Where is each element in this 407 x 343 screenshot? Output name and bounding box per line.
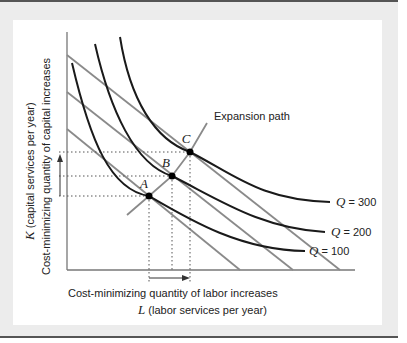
point-a-label: A (139, 176, 148, 191)
point-b (169, 173, 176, 180)
point-b-label: B (162, 155, 170, 170)
isoquants (72, 37, 330, 251)
point-c-label: C (182, 131, 191, 146)
point-a (146, 193, 153, 200)
isoquant-label-200: Q = 200 (331, 224, 371, 239)
x-axis-label: L (labor services per year) (137, 302, 267, 317)
cost-minimization-diagram: A B C Expansion path Q = 300 Q = 200 Q =… (0, 0, 407, 343)
isoquant-label-100: Q = 100 (309, 243, 349, 258)
x-axis-note: Cost-minimizing quantity of labor increa… (68, 287, 278, 299)
isoquant-label-300: Q = 300 (336, 194, 376, 209)
point-c (187, 149, 194, 156)
y-axis-note: Cost-minimizing quantity of capital incr… (40, 57, 52, 275)
guide-lines (59, 152, 190, 284)
labor-increase-arrow (149, 275, 190, 281)
capital-increase-arrow (57, 154, 63, 196)
expansion-path-label: Expansion path (214, 110, 290, 122)
isocost-lines (67, 55, 340, 270)
y-axis-label: K (capital services per year) (22, 102, 37, 241)
